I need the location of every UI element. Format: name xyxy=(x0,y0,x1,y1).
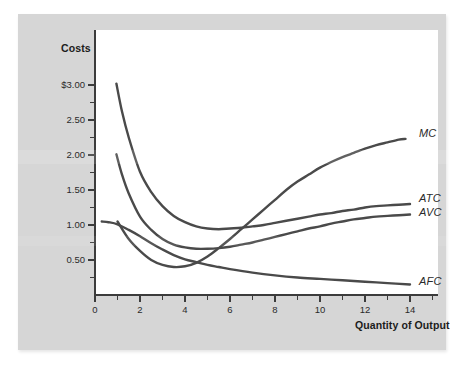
x-axis-tick-label: 10 xyxy=(308,304,332,315)
y-axis-tick-label: 1.50 xyxy=(43,184,85,195)
x-axis-tick-label: 14 xyxy=(398,304,422,315)
x-axis-title: Quantity of Output xyxy=(355,319,450,331)
y-axis-title: Costs xyxy=(61,42,91,54)
y-axis-tick-label: 0.50 xyxy=(43,254,85,265)
x-axis-tick-label: 8 xyxy=(263,304,287,315)
x-axis-tick-label: 2 xyxy=(128,304,152,315)
cost-curves-figure: Costs Quantity of Output 0.501.001.502.0… xyxy=(0,0,464,369)
curves-group xyxy=(102,84,410,285)
y-axis-tick-label: $3.00 xyxy=(43,79,85,90)
x-axis-tick-label: 0 xyxy=(83,304,107,315)
y-axis-tick-label: 2.00 xyxy=(43,149,85,160)
curve-label-avc: AVC xyxy=(419,206,442,218)
curve-label-atc: ATC xyxy=(419,192,441,204)
curve-atc xyxy=(116,84,410,230)
curve-label-afc: AFC xyxy=(419,275,442,287)
x-axis-tick-label: 12 xyxy=(353,304,377,315)
curve-avc xyxy=(116,154,410,249)
x-axis-tick-label: 4 xyxy=(173,304,197,315)
axis-ticks-group xyxy=(88,85,433,302)
y-axis-tick-label: 1.00 xyxy=(43,219,85,230)
x-axis-tick-label: 6 xyxy=(218,304,242,315)
curve-label-mc: MC xyxy=(419,127,437,139)
curve-afc xyxy=(102,222,410,285)
y-axis-tick-label: 2.50 xyxy=(43,114,85,125)
